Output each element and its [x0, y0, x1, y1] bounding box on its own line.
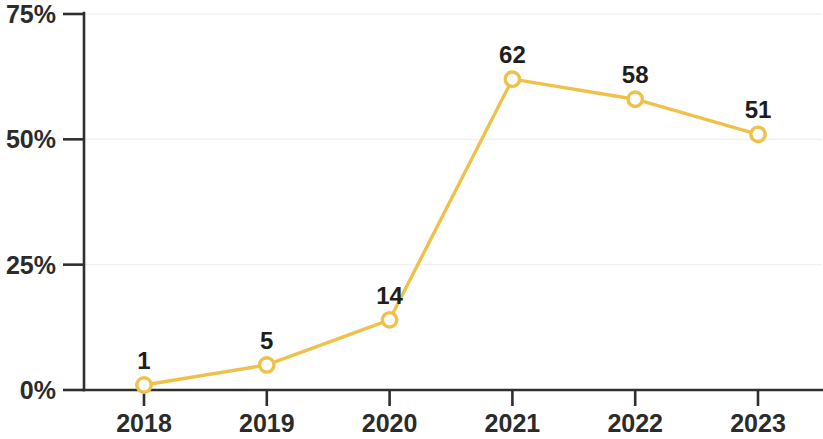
y-axis-tick-label: 0% [20, 376, 56, 404]
chart-background [0, 0, 823, 439]
y-axis-tick-label: 75% [6, 0, 56, 28]
data-point-value-label: 1 [137, 347, 150, 374]
data-point-marker [751, 127, 765, 141]
y-axis-tick-label: 50% [6, 125, 56, 153]
data-point-value-label: 62 [499, 41, 526, 68]
x-axis-tick-label: 2022 [607, 409, 663, 437]
x-axis-tick-label: 2020 [362, 409, 418, 437]
data-point-marker [382, 313, 396, 327]
data-point-marker [260, 358, 274, 372]
chart-canvas: 1514625851 0%25%50%75% 20182019202020212… [0, 0, 823, 439]
data-point-marker [628, 92, 642, 106]
x-axis-tick-label: 2018 [116, 409, 172, 437]
data-point-value-label: 58 [622, 61, 649, 88]
line-chart: 1514625851 0%25%50%75% 20182019202020212… [0, 0, 823, 439]
x-axis-tick-label: 2021 [485, 409, 541, 437]
data-point-value-label: 51 [745, 96, 772, 123]
data-point-value-label: 14 [376, 282, 403, 309]
x-axis-tick-label: 2019 [239, 409, 295, 437]
data-point-value-label: 5 [260, 327, 273, 354]
x-axis-tick-label: 2023 [730, 409, 786, 437]
data-point-marker [505, 72, 519, 86]
y-axis-tick-label: 25% [6, 251, 56, 279]
data-point-marker [137, 378, 151, 392]
